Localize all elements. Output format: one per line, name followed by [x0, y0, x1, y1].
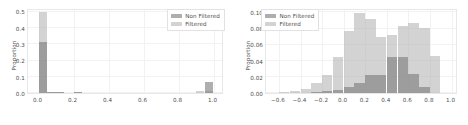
x-tick-label: 0.6 [403, 97, 412, 103]
x-tick-label: 0.4 [103, 97, 112, 103]
legend-item-filtered: Filtered [171, 21, 220, 27]
histogram-bar [333, 90, 343, 93]
legend-label-non-filtered: Non Filtered [185, 13, 220, 19]
legend-label-filtered: Filtered [280, 21, 302, 27]
non-filtered-swatch-icon [265, 14, 276, 18]
histogram-bar [205, 82, 213, 93]
y-tick-label: 0.4 [16, 26, 25, 32]
x-tick-label: 1.0 [446, 97, 455, 103]
gridline-horizontal [28, 76, 222, 77]
histogram-bar [74, 92, 82, 93]
x-tick-label: 0.0 [338, 97, 347, 103]
histogram-bar [311, 92, 321, 93]
filtered-swatch-icon [171, 22, 182, 26]
y-axis-ticks-left: 0.00.10.20.30.40.5 [7, 9, 25, 94]
gridline-horizontal [28, 60, 222, 61]
histogram-bar [365, 75, 375, 93]
legend-item-filtered: Filtered [265, 21, 314, 27]
y-tick-label: 0.0 [16, 91, 25, 97]
x-tick-label: 1.0 [208, 97, 217, 103]
x-tick-label: 0.0 [33, 97, 42, 103]
x-tick-label: −0.6 [271, 97, 285, 103]
x-tick-label: 0.2 [360, 97, 369, 103]
histogram-bar [398, 57, 408, 93]
histogram-bar [354, 83, 364, 93]
filtered-swatch-icon [265, 22, 276, 26]
gridline-vertical [74, 10, 75, 93]
histogram-bar [301, 89, 311, 93]
legend-item-non-filtered: Non Filtered [171, 13, 220, 19]
histogram-bar [196, 91, 204, 93]
x-tick-label: −0.2 [314, 97, 328, 103]
histogram-bar [419, 87, 429, 93]
histogram-bar [408, 74, 418, 93]
y-tick-label: 0.1 [16, 75, 25, 81]
x-tick-label: 0.4 [381, 97, 390, 103]
figure: Proportion 0.00.10.20.30.40.5 0.00.20.40… [0, 0, 468, 125]
legend-item-non-filtered: Non Filtered [265, 13, 314, 19]
legend-label-filtered: Filtered [185, 21, 207, 27]
gridline-vertical [144, 10, 145, 93]
x-axis-ticks-left: 0.00.20.40.60.81.0 [27, 97, 223, 107]
histogram-bar [344, 87, 354, 93]
chart-panel-left: Proportion 0.00.10.20.30.40.5 0.00.20.40… [0, 0, 234, 125]
x-tick-label: 0.2 [68, 97, 77, 103]
chart-panel-right: Proportion 0.000.020.040.060.080.10 −0.6… [234, 0, 468, 125]
gridline-vertical [109, 10, 110, 93]
y-tick-label: 0.04 [250, 59, 263, 65]
histogram-bar [387, 57, 397, 93]
histogram-bar [430, 56, 440, 93]
x-axis-ticks-right: −0.6−0.4−0.20.00.20.40.60.81.0 [265, 97, 457, 107]
y-tick-label: 0.5 [16, 9, 25, 15]
histogram-bar [279, 92, 289, 93]
histogram-bar [376, 75, 386, 93]
histogram-bar [322, 91, 332, 93]
histogram-bar [56, 92, 64, 93]
histogram-bar [344, 31, 354, 93]
legend-right: Non Filtered Filtered [261, 9, 319, 31]
histogram-bar [333, 57, 343, 93]
legend-left: Non Filtered Filtered [167, 9, 225, 31]
non-filtered-swatch-icon [171, 14, 182, 18]
histogram-bar [47, 92, 55, 93]
x-tick-label: 0.6 [138, 97, 147, 103]
x-tick-label: −0.4 [293, 97, 307, 103]
histogram-bar [322, 75, 332, 93]
histogram-bar [419, 28, 429, 93]
y-tick-label: 0.02 [250, 75, 263, 81]
histogram-bar [290, 91, 300, 93]
y-tick-label: 0.2 [16, 58, 25, 64]
y-tick-label: 0.00 [250, 91, 263, 97]
y-tick-label: 0.06 [250, 42, 263, 48]
legend-label-non-filtered: Non Filtered [280, 13, 315, 19]
histogram-bar [354, 13, 364, 93]
y-tick-label: 0.3 [16, 42, 25, 48]
gridline-horizontal [28, 43, 222, 44]
histogram-bar [39, 42, 47, 93]
x-tick-label: 0.8 [424, 97, 433, 103]
gridline-vertical [452, 10, 453, 93]
x-tick-label: 0.8 [173, 97, 182, 103]
